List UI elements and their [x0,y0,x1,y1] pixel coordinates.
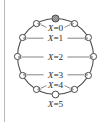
node-level-3-left [20,72,26,78]
level-2-label: X=2 [47,52,64,62]
level-1-label: X=1 [47,33,64,43]
node-level-4-right [71,86,77,92]
node-level-1-right [85,34,91,40]
node-level-2-left [14,53,20,59]
node-root-marked [52,15,59,22]
node-level-2-right [90,53,96,59]
cycle-graph-svg: X=0 X=1 X=2 X=3 X=4 X=5 [0,0,110,122]
node-level-5-bottom [52,91,59,98]
node-level-1-left [20,34,26,40]
node-level-0-left [33,21,39,27]
level-4-label: X=4 [47,80,64,90]
level-5-label: X=5 [47,99,64,109]
node-level-3-right [85,72,91,78]
node-level-4-left [33,86,39,92]
level-3-label: X=3 [47,70,64,80]
figure-container: X=0 X=1 X=2 X=3 X=4 X=5 [0,0,110,122]
level-0-label: X=0 [47,23,64,33]
node-level-0-right [71,21,77,27]
